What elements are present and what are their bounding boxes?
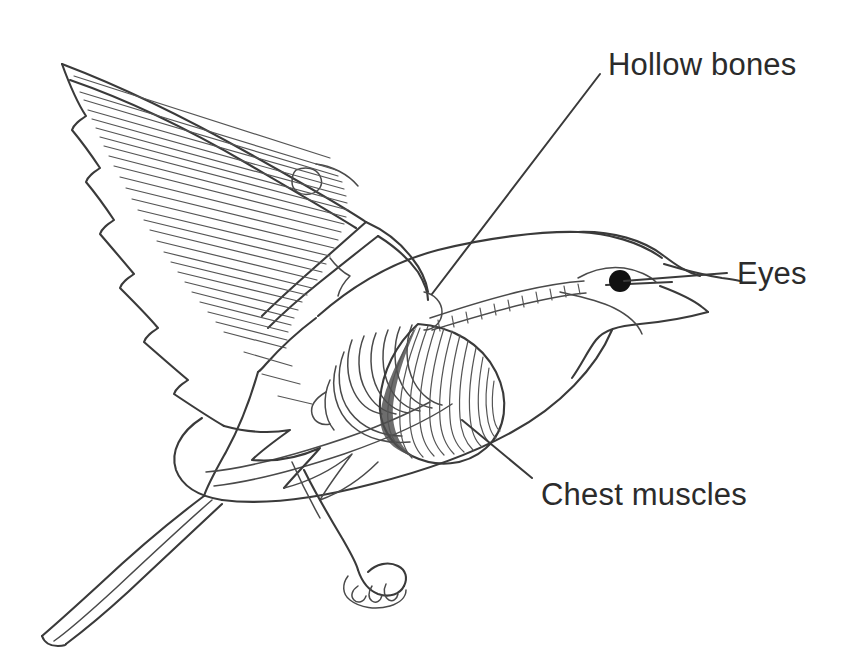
leader-hollow-bones (432, 74, 600, 294)
foot-claw-1 (352, 586, 366, 602)
tail-group (42, 496, 222, 646)
foot-claw-3 (384, 584, 398, 601)
body-belly-contour (174, 418, 222, 500)
spine-bottom-rail (432, 293, 586, 330)
rib-1 (348, 340, 382, 414)
leg-lower (358, 570, 404, 596)
leg-and-foot-group (292, 462, 406, 608)
spine-top-rail (430, 281, 584, 318)
wing-shaft-upper (262, 222, 366, 316)
head-cheek-line (560, 292, 642, 334)
body-upper-contour (318, 232, 662, 316)
vertebra-segments (438, 284, 580, 331)
wing-humerus (366, 222, 428, 292)
body-keel-line (214, 404, 452, 486)
wing-trailing-edge (224, 426, 320, 488)
wing-notched-margin (62, 64, 224, 426)
tail-upper-edge (42, 496, 204, 636)
label-hollow-bones: Hollow bones (608, 47, 797, 82)
vertebral-column-group (430, 281, 586, 331)
wing-humerus-lower (378, 236, 428, 300)
wing-leading-edge (62, 64, 366, 222)
leg-feather-tuft (292, 462, 320, 518)
tail-lower-edge (66, 504, 222, 644)
label-eyes: Eyes (737, 256, 807, 291)
chest-muscle-group (380, 324, 505, 464)
head-and-beak-group (560, 232, 740, 378)
leader-lines-group (432, 74, 727, 478)
furcula-wishbone (325, 380, 334, 430)
foot-tarsus (368, 564, 406, 586)
body-flank-contour (204, 372, 258, 496)
beak-lower (660, 286, 708, 312)
label-chest-muscles: Chest muscles (541, 477, 747, 512)
head-chin-contour (572, 312, 708, 378)
tail-center-vane (54, 500, 212, 641)
wing-shaft-lower (268, 236, 378, 328)
beak-upper (664, 264, 740, 281)
labels-group: Hollow bones Eyes Chest muscles (541, 47, 807, 512)
wing-elbow-joint (330, 258, 350, 296)
bird-anatomy-diagram: Hollow bones Eyes Chest muscles (0, 0, 850, 667)
diagram-canvas: Hollow bones Eyes Chest muscles (0, 0, 850, 667)
